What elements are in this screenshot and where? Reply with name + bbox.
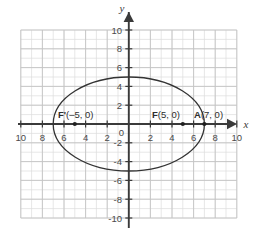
y-axis-name: y <box>119 2 125 14</box>
label-focus-left-bold: F' <box>58 109 66 120</box>
y-tick--8: -8 <box>114 194 122 205</box>
x-tick-4: 4 <box>169 132 174 143</box>
x-tick-2: 2 <box>148 132 153 143</box>
y-axis-arrow <box>124 12 134 22</box>
y-tick-6: 6 <box>117 62 122 73</box>
x-axis-name: x <box>243 118 249 130</box>
y-tick-2: 2 <box>117 100 122 111</box>
y-tick-4: 4 <box>117 81 122 92</box>
point-vertex-right <box>202 122 206 126</box>
y-tick--4: -4 <box>114 156 122 167</box>
label-focus-left-rest: (–5, 0) <box>66 109 93 120</box>
y-tick-8: 8 <box>117 43 122 54</box>
label-vertex-right-rest: (7, 0) <box>201 109 223 120</box>
point-focus-left <box>73 122 77 126</box>
point-focus-right <box>181 122 185 126</box>
origin-label: 0 <box>119 127 124 138</box>
y-tick--2: -2 <box>114 137 122 148</box>
y-tick-10: 10 <box>111 25 122 36</box>
label-focus-left: F'(–5, 0) <box>58 109 94 120</box>
x-tick--2: 2 <box>105 132 110 143</box>
axis-lines <box>18 12 227 228</box>
y-tick--6: -6 <box>114 175 122 186</box>
label-focus-right: F(5, 0) <box>152 109 180 120</box>
x-tick--10: 10 <box>16 132 27 143</box>
x-tick-6: 6 <box>191 132 196 143</box>
x-tick-10: 10 <box>232 132 243 143</box>
coordinate-plane: 10 8 6 4 2 2 4 6 8 10 10 8 6 4 2 -2 -4 -… <box>0 0 258 247</box>
x-tick-8: 8 <box>213 132 218 143</box>
label-vertex-right: A(7, 0) <box>194 109 223 120</box>
ellipse-graph-figure: 10 8 6 4 2 2 4 6 8 10 10 8 6 4 2 -2 -4 -… <box>0 0 258 247</box>
label-focus-right-rest: (5, 0) <box>158 109 180 120</box>
x-tick--6: 6 <box>61 132 66 143</box>
x-axis-arrow <box>227 119 237 129</box>
y-tick--10: -10 <box>108 213 122 224</box>
x-tick--4: 4 <box>83 132 88 143</box>
x-tick--8: 8 <box>40 132 45 143</box>
